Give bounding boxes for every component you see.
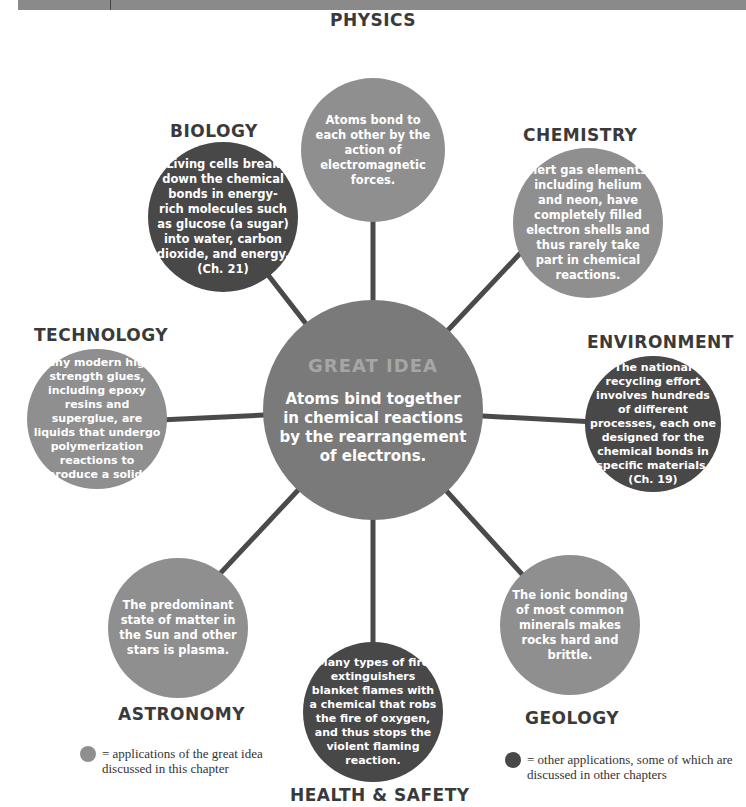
label-environment: ENVIRONMENT: [587, 332, 734, 352]
legend-light: = applications of the great idea discuss…: [80, 746, 290, 776]
node-biology-text: Living cells break down the chemical bon…: [148, 157, 298, 277]
node-environment-text: The national recycling effort involves h…: [585, 361, 721, 487]
node-astronomy: The predominant state of matter in the S…: [108, 558, 248, 698]
label-astronomy: ASTRONOMY: [118, 704, 245, 724]
node-geology-text: The ionic bonding of most common mineral…: [500, 588, 640, 663]
label-geology: GEOLOGY: [525, 708, 619, 728]
great-idea-text: Atoms bind together in chemical reaction…: [263, 390, 483, 466]
label-biology: BIOLOGY: [170, 121, 258, 141]
label-physics: PHYSICS: [330, 10, 416, 30]
node-health-safety-text: Many types of fire extinguishers blanket…: [303, 656, 443, 768]
great-idea-title: GREAT IDEA: [308, 355, 438, 376]
node-physics: Atoms bond to each other by the action o…: [301, 78, 445, 222]
node-geology: The ionic bonding of most common mineral…: [500, 555, 640, 695]
label-chemistry: CHEMISTRY: [523, 125, 637, 145]
light-circle-icon: [80, 746, 96, 762]
legend-dark-text: = other applications, some of which are …: [527, 752, 740, 782]
node-astronomy-text: The predominant state of matter in the S…: [108, 598, 248, 658]
node-technology-text: Many modern high-strength glues, includi…: [27, 356, 167, 482]
node-chemistry-text: Inert gas elements, including helium and…: [513, 163, 663, 283]
node-environment: The national recycling effort involves h…: [585, 356, 721, 492]
node-technology: Many modern high-strength glues, includi…: [27, 349, 167, 489]
node-physics-text: Atoms bond to each other by the action o…: [301, 113, 445, 188]
great-idea-node: GREAT IDEA Atoms bind together in chemic…: [263, 300, 483, 520]
label-health-safety: HEALTH & SAFETY: [290, 785, 470, 805]
label-technology: TECHNOLOGY: [34, 325, 168, 345]
legend-light-text: = applications of the great idea discuss…: [102, 746, 290, 776]
legend-dark: = other applications, some of which are …: [505, 752, 740, 782]
node-chemistry: Inert gas elements, including helium and…: [513, 148, 663, 298]
node-biology: Living cells break down the chemical bon…: [148, 142, 298, 292]
dark-circle-icon: [505, 752, 521, 768]
node-health-safety: Many types of fire extinguishers blanket…: [303, 642, 443, 782]
